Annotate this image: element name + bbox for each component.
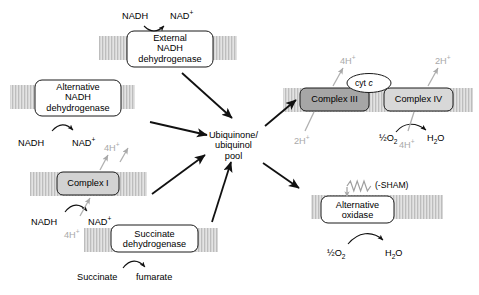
proton-charge: + <box>116 141 120 148</box>
arrow-top-nadh-to-nad <box>144 26 164 31</box>
enzyme-box-alternative-oxidase[interactable] <box>321 196 394 223</box>
proton-arrow-alternative-ndh-in <box>120 148 128 162</box>
metabolite-label-top-nadh: NADH <box>122 11 148 21</box>
proton-base: 4H <box>64 230 76 240</box>
nad-base: NAD <box>72 138 91 148</box>
enzyme-box-alternative-nadh-dehydrogenase[interactable] <box>35 80 121 116</box>
proton-arrow-complex-iv-out <box>428 68 438 86</box>
water-o: O <box>437 133 444 143</box>
proton-base: 2H <box>435 56 447 66</box>
metabolite-label-ci-nad: NAD+ <box>88 217 111 227</box>
nad-charge: + <box>189 9 193 16</box>
proton-label-complex-iii-in: 2H+ <box>294 136 310 146</box>
metabolite-label-aox-water: H2O <box>385 248 402 258</box>
proton-base: 2H <box>294 136 306 146</box>
proton-line-complex-iii-in <box>305 112 314 131</box>
proton-label-complex-iv-out: 2H+ <box>435 56 451 66</box>
arrow-alt-nadh-to-nad <box>52 125 73 131</box>
oxygen-base: ½O <box>379 133 394 143</box>
proton-line-complex-iv-in <box>408 112 414 131</box>
nad-base: NAD <box>170 11 189 21</box>
oxygen-subscript: 2 <box>342 253 346 260</box>
pathway-diagram-canvas: External NADH dehydrogenase Alternative … <box>0 0 479 295</box>
enzyme-box-complex-iv[interactable] <box>384 88 453 111</box>
enzyme-box-external-nadh-dehydrogenase[interactable] <box>127 31 213 67</box>
metabolite-label-alt-nadh: NADH <box>18 138 44 148</box>
proton-charge: + <box>352 54 356 61</box>
proton-charge: + <box>447 54 451 61</box>
metabolite-label-civ-oxygen: ½O2 <box>379 133 397 143</box>
water-o: O <box>395 248 402 258</box>
proton-arrow-complex-i-out <box>100 155 108 170</box>
proton-charge: + <box>411 138 415 145</box>
proton-label-complex-i-in: 4H+ <box>64 230 80 240</box>
proton-base: 4H <box>104 143 116 153</box>
arrow-external-ndh-to-pool <box>182 73 232 118</box>
arrow-complex-i-to-pool <box>152 155 205 194</box>
water-h: H <box>427 133 434 143</box>
nad-charge: + <box>91 136 95 143</box>
oxygen-subscript: 2 <box>394 138 398 145</box>
arrow-succinate-to-fumarate <box>123 261 145 268</box>
nad-base: NAD <box>88 217 107 227</box>
proton-label-complex-iii-out: 4H+ <box>340 56 356 66</box>
proton-charge: + <box>306 134 310 141</box>
enzyme-box-complex-i[interactable] <box>57 172 119 195</box>
cyt-c-prefix: cyt <box>355 78 368 88</box>
metabolite-label-top-nad: NAD+ <box>170 11 193 21</box>
cyt-c-italic: c <box>368 78 372 88</box>
arrow-pool-to-alternative-oxidase <box>263 163 299 188</box>
proton-base: 4H <box>340 56 352 66</box>
metabolite-label-succinate: Succinate <box>77 272 117 282</box>
arrow-alternative-ndh-to-pool <box>150 122 207 135</box>
oxygen-base: ½O <box>327 248 342 258</box>
proton-base: 4H <box>399 140 411 150</box>
water-h: H <box>385 248 392 258</box>
proton-label-complex-i-out: 4H+ <box>104 143 120 153</box>
arrow-succinate-dh-to-pool <box>212 162 231 222</box>
sham-inhibitor-label: (-SHAM) <box>375 180 408 190</box>
metabolite-label-aox-oxygen: ½O2 <box>327 248 345 258</box>
proton-arrow-complex-iii-out <box>333 68 343 86</box>
proton-charge: + <box>76 228 80 235</box>
metabolite-label-alt-nad: NAD+ <box>72 138 95 148</box>
metabolite-label-civ-water: H2O <box>427 133 444 143</box>
nad-charge: + <box>107 215 111 222</box>
sham-squiggle-icon <box>347 181 371 191</box>
arrow-pool-to-complex-iii <box>265 100 296 126</box>
enzyme-box-succinate-dehydrogenase[interactable] <box>111 225 198 252</box>
proton-label-complex-iv-in: 4H+ <box>399 140 415 150</box>
arrow-civ-o2-to-h2o <box>396 124 426 132</box>
arrow-aox-o2-to-h2o <box>348 234 383 244</box>
cyt-c-label: cyt c <box>355 78 373 88</box>
metabolite-label-ci-nadh: NADH <box>31 217 57 227</box>
metabolite-label-fumarate: fumarate <box>136 272 172 282</box>
